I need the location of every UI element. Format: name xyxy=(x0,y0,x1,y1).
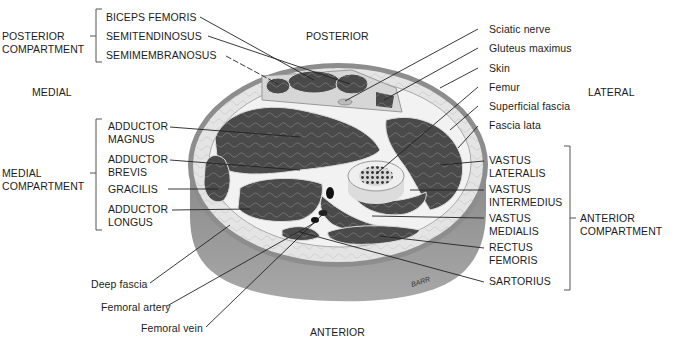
label-adductor-brevis: ADDUCTOR BREVIS xyxy=(108,153,168,179)
label-sciatic-nerve: Sciatic nerve xyxy=(489,23,550,36)
semimembranosus-muscle xyxy=(266,78,290,94)
label-adductor-longus: ADDUCTOR LONGUS xyxy=(108,203,168,229)
label-fascia-lata: Fascia lata xyxy=(489,119,541,132)
label-skin: Skin xyxy=(489,62,510,75)
label-femoral-vein: Femoral vein xyxy=(141,322,203,335)
thigh-cross-section-figure: BARR xyxy=(0,0,675,339)
label-semitendinosus: SEMITENDINOSUS xyxy=(106,30,202,43)
orientation-lateral: LATERAL xyxy=(588,86,635,99)
label-vastus-medialis: VASTUS MEDIALIS xyxy=(489,212,539,238)
gracilis-muscle xyxy=(204,155,230,201)
label-vastus-intermedius: VASTUS INTERMEDIUS xyxy=(489,183,562,209)
label-gluteus-maximus: Gluteus maximus xyxy=(489,42,572,55)
label-adductor-magnus: ADDUCTOR MAGNUS xyxy=(108,120,168,146)
label-deep-fascia: Deep fascia xyxy=(91,278,148,291)
label-rectus-femoris: RECTUS FEMORIS xyxy=(489,241,538,267)
posterior-compartment-label: POSTERIOR COMPARTMENT xyxy=(2,30,84,56)
label-sartorius: SARTORIUS xyxy=(489,275,551,288)
adductor-longus-muscle xyxy=(238,178,322,221)
label-femur: Femur xyxy=(489,81,520,94)
label-femoral-artery: Femoral artery xyxy=(101,301,171,314)
femoral-vein xyxy=(319,210,328,216)
sciatic-nerve xyxy=(338,99,352,105)
label-vastus-lateralis: VASTUS LATERALIS xyxy=(489,154,546,180)
label-biceps-femoris: BICEPS FEMORIS xyxy=(106,11,197,24)
vessel xyxy=(326,187,334,199)
label-semimembranosus: SEMIMEMBRANOSUS xyxy=(106,49,217,62)
label-gracilis: GRACILIS xyxy=(108,183,158,196)
medial-compartment-label: MEDIAL COMPARTMENT xyxy=(2,167,84,193)
anterior-compartment-label: ANTERIOR COMPARTMENT xyxy=(580,212,662,238)
orientation-posterior: POSTERIOR xyxy=(306,30,369,43)
biceps-femoris-muscle xyxy=(288,71,340,93)
femur-marrow xyxy=(359,166,393,186)
label-superficial-fascia: Superficial fascia xyxy=(489,100,570,113)
orientation-medial: MEDIAL xyxy=(32,86,72,99)
orientation-anterior: ANTERIOR xyxy=(310,326,365,339)
